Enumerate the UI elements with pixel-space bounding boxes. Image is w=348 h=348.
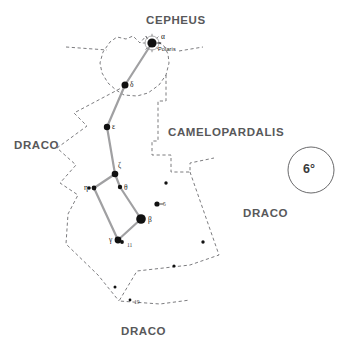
sky-canvas	[0, 0, 348, 348]
asterism-line-alpha-delta	[125, 43, 152, 85]
star-5umi	[154, 201, 159, 206]
asterism-lines	[94, 43, 152, 240]
star-delta	[122, 82, 129, 89]
constellation-label-draco-south: DRACO	[121, 325, 166, 337]
star-chart: CEPHEUSCAMELOPARDALISDRACODRACODRACO αPo…	[0, 0, 348, 348]
boundary-segment-5	[57, 86, 125, 301]
star-spike-alpha	[157, 36, 159, 38]
star-label-11umi: 11	[127, 242, 132, 248]
star-markers	[87, 34, 205, 302]
star-field-1	[164, 181, 167, 184]
star-label-eta: η	[84, 183, 88, 192]
star-theta	[118, 185, 122, 189]
boundary-segment-3	[152, 75, 214, 172]
star-name-alpha: Polaris	[158, 46, 176, 52]
star-label-epsilon: ε	[112, 122, 115, 131]
star-label-gamma: γ	[109, 235, 112, 244]
star-field-4	[114, 286, 117, 289]
constellation-label-camelopardalis: CAMELOPARDALIS	[168, 126, 284, 138]
star-epsilon	[104, 124, 110, 130]
constellation-label-draco-west: DRACO	[14, 139, 59, 151]
constellation-label-draco-east: DRACO	[243, 207, 288, 219]
star-label-alpha: α	[161, 32, 165, 41]
star-alpha	[147, 38, 156, 47]
constellation-boundary	[57, 36, 219, 304]
scale-circle-label: 6°	[303, 162, 315, 176]
boundary-segment-1	[66, 47, 107, 50]
star-label-zeta: ζ	[118, 161, 121, 170]
star-label-beta: β	[148, 215, 152, 224]
asterism-line-delta-epsilon	[107, 85, 125, 127]
star-field-2	[201, 240, 204, 243]
star-eta	[92, 186, 97, 191]
asterism-line-eta-gamma	[94, 188, 118, 240]
boundary-segment-4	[119, 172, 219, 304]
star-label-delta: δ	[130, 80, 134, 89]
star-19umi	[129, 299, 132, 302]
star-11umi	[120, 240, 124, 244]
star-beta	[136, 214, 146, 224]
constellation-label-cepheus: CEPHEUS	[146, 14, 206, 26]
star-field-3	[172, 264, 175, 267]
star-label-5umi: 5	[163, 201, 166, 207]
star-label-19umi: 19	[134, 299, 140, 305]
star-zeta	[112, 171, 119, 178]
asterism-line-zeta-eta	[94, 174, 115, 188]
star-label-theta: θ	[124, 183, 128, 192]
boundary-segment-2	[179, 47, 203, 51]
asterism-line-epsilon-zeta	[107, 127, 115, 174]
